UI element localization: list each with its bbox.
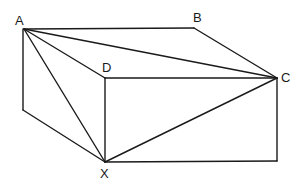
label-a: A bbox=[15, 13, 24, 28]
edge-x-bottom-right bbox=[105, 161, 277, 162]
edge-x-c bbox=[105, 78, 277, 162]
label-x: X bbox=[100, 166, 109, 181]
edges bbox=[23, 28, 277, 162]
box-diagram: A B D C X bbox=[0, 0, 304, 186]
edge-a-b bbox=[24, 28, 194, 29]
label-d: D bbox=[102, 60, 111, 75]
edge-bottom-left-x bbox=[23, 110, 105, 162]
edge-a-x bbox=[24, 29, 105, 162]
edge-a-c bbox=[24, 29, 277, 78]
label-c: C bbox=[281, 70, 290, 85]
label-b: B bbox=[193, 10, 202, 25]
